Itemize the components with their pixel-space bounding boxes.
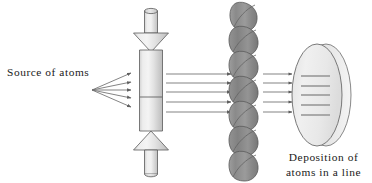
tube-upper-funnel [134,33,169,52]
source-arrow [92,73,131,90]
source-beam-arrows [92,73,131,107]
masked-beam-arrows [263,74,292,112]
tube-bottom-cap [145,174,158,177]
source-arrow [92,90,131,98]
mask-element [229,151,258,181]
source-arrow [92,82,131,90]
source-of-atoms-label: Source of atoms [7,65,89,80]
deposition-label-line1: Deposition of [286,150,361,165]
tube-top-cap [145,8,158,13]
substrate-disk [292,44,351,146]
deposition-label-line2: atoms in a line [286,165,361,180]
collimator-tube [134,8,169,176]
mask-grating [229,2,258,181]
tube-lower-funnel [134,131,169,150]
deposition-label: Deposition of atoms in a line [286,150,361,180]
tube-top-neck [145,11,158,33]
source-arrow [92,90,131,107]
collimated-beam-arrows [166,74,231,112]
tube-bottom-neck [145,150,158,174]
atom-deposition-figure: Source of atoms Deposition of atoms in a… [0,0,372,183]
tube-mid-body [140,50,163,131]
